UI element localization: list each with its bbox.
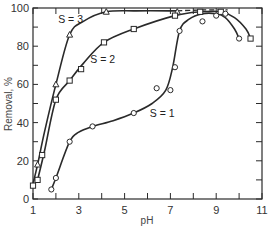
x-tick-label: 5 — [122, 204, 128, 216]
square-marker — [248, 36, 253, 41]
square-marker — [101, 40, 106, 45]
triangle-marker — [35, 161, 41, 167]
triangle-marker — [67, 32, 73, 38]
circle-marker — [223, 11, 228, 16]
circle-marker — [90, 124, 95, 129]
x-tick-label: 11 — [256, 204, 267, 216]
x-tick-label: 9 — [213, 204, 219, 216]
removal-vs-ph-chart: 1357911020406080100 S = 3S = 2S = 1 pH R… — [0, 0, 271, 231]
square-marker — [40, 152, 45, 157]
y-tick-label: 80 — [17, 40, 29, 52]
circle-marker — [67, 139, 72, 144]
circle-marker — [49, 187, 54, 192]
y-tick-label: 40 — [17, 117, 29, 129]
circle-marker — [154, 86, 159, 91]
y-tick-label: 0 — [23, 193, 29, 205]
series-label: S = 1 — [150, 107, 175, 119]
circle-marker — [200, 19, 205, 24]
y-tick-label: 20 — [17, 155, 29, 167]
y-tick-label: 100 — [11, 2, 29, 14]
x-tick-label: 3 — [76, 204, 82, 216]
square-marker — [198, 9, 203, 14]
circle-marker — [131, 110, 136, 115]
y-tick-label: 60 — [17, 78, 29, 90]
y-axis-title: Removal, % — [3, 77, 14, 131]
circle-marker — [214, 13, 219, 18]
circle-marker — [168, 88, 173, 93]
data-curves — [33, 10, 251, 190]
x-tick-label: 7 — [167, 204, 173, 216]
square-marker — [78, 67, 83, 72]
x-axis-title: pH — [141, 215, 154, 226]
series-label: S = 2 — [90, 53, 115, 65]
triangle-marker — [53, 81, 59, 87]
circle-marker — [172, 65, 177, 70]
square-marker — [35, 177, 40, 182]
x-tick-label: 1 — [30, 204, 36, 216]
square-marker — [53, 97, 58, 102]
data-markers — [30, 9, 253, 192]
square-marker — [67, 78, 72, 83]
square-marker — [172, 13, 177, 18]
series-label: S = 3 — [58, 13, 83, 25]
circle-marker — [53, 175, 58, 180]
circle-marker — [177, 28, 182, 33]
square-marker — [131, 26, 136, 31]
square-marker — [30, 183, 35, 188]
circle-marker — [237, 36, 242, 41]
series-labels: S = 3S = 2S = 1 — [58, 13, 175, 119]
series-curve — [51, 13, 239, 189]
